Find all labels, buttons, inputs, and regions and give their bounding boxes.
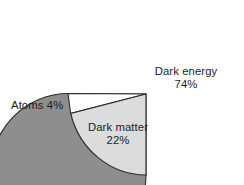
slice-label-dark-matter: Dark matter 22% xyxy=(77,121,159,147)
slice-label-dark-energy-name: Dark energy xyxy=(145,65,227,78)
slice-label-dark-energy: Dark energy 74% xyxy=(145,65,227,91)
slice-label-dark-matter-name: Dark matter xyxy=(77,121,159,134)
slice-label-dark-matter-value: 22% xyxy=(77,134,159,147)
pie-chart-graphic xyxy=(0,0,244,185)
slice-label-atoms: Atoms 4% xyxy=(11,99,63,112)
slice-label-dark-energy-value: 74% xyxy=(145,78,227,91)
pie-chart-figure: Dark energy 74% Dark matter 22% Atoms 4% xyxy=(0,0,244,185)
